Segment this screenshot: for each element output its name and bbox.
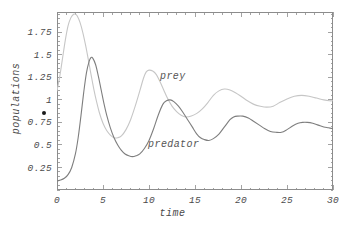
data-curves-group [57, 14, 333, 181]
y-tick-label: 0.75 [2, 117, 52, 128]
x-tick-label: 30 [327, 195, 339, 206]
x-tick-label: 20 [235, 195, 247, 206]
predator-curve [57, 57, 333, 181]
x-tick-label: 25 [281, 195, 293, 206]
tick-marks-group [57, 12, 333, 190]
plot-container: 0.250.50.7511.251.51.75 051015202530 tim… [0, 0, 345, 228]
cursor-artifact-dot [42, 111, 46, 115]
y-tick-label: 1.75 [2, 27, 52, 38]
predator-curve-label: predator [148, 139, 199, 150]
x-tick-label: 10 [143, 195, 155, 206]
x-axis-title: time [0, 208, 345, 219]
y-tick-label: 0.5 [2, 139, 52, 150]
prey-curve-label: prey [160, 71, 186, 82]
x-tick-label: 15 [189, 195, 201, 206]
y-tick-label: 1.5 [2, 49, 52, 60]
y-axis-title: populations [11, 39, 22, 159]
y-tick-label: 1 [2, 94, 52, 105]
x-tick-label: 5 [100, 195, 106, 206]
y-tick-label: 0.25 [2, 162, 52, 173]
y-tick-label: 1.25 [2, 72, 52, 83]
x-tick-label: 0 [54, 195, 60, 206]
